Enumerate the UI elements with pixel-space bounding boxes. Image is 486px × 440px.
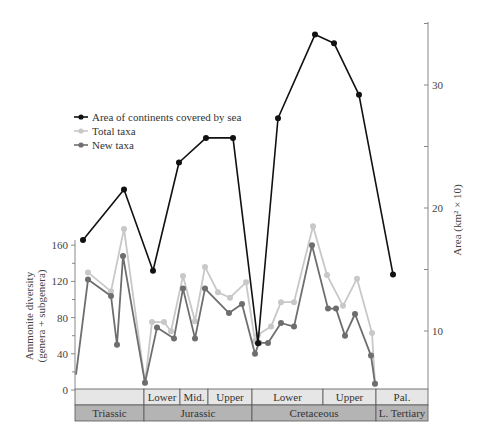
band-label: Triassic: [92, 407, 127, 419]
data-point: [372, 381, 378, 387]
band-lower-1: Jurassic: [144, 405, 252, 421]
chart-legend: Area of continents covered by seaTotal t…: [74, 111, 241, 151]
band-lower-3: L. Tertiary: [376, 405, 428, 421]
data-point: [265, 340, 271, 346]
band-lower-2: Cretaceous: [252, 405, 376, 421]
legend-marker-icon: [78, 142, 83, 147]
data-point: [180, 273, 186, 279]
data-point: [309, 242, 315, 248]
geologic-time-bands: LowerMid.UpperLowerUpperPal.TriassicJura…: [75, 389, 428, 421]
band-label: Jurassic: [181, 407, 216, 419]
data-point: [340, 303, 346, 309]
data-point: [154, 325, 160, 331]
legend-label: Total taxa: [92, 125, 136, 137]
data-point: [390, 271, 396, 277]
left-y-axis: 04080120160Ammonite diversity(genera + s…: [23, 239, 75, 396]
data-point: [252, 351, 258, 357]
band-upper-2: Mid.: [180, 389, 208, 405]
series-area-of-continents-covered-by-sea: [80, 32, 396, 347]
data-point: [291, 299, 297, 305]
data-point: [180, 286, 186, 292]
band-upper-0: [75, 389, 144, 405]
band-label: Mid.: [183, 391, 204, 403]
band-label: Upper: [216, 391, 244, 403]
band-upper-4: Lower: [252, 389, 323, 405]
series-total-taxa: [85, 223, 378, 387]
data-point: [291, 324, 297, 330]
band-label: Pal.: [394, 391, 411, 403]
data-point: [268, 324, 274, 330]
data-point: [278, 299, 284, 305]
data-point: [121, 226, 127, 232]
svg-text:80: 80: [57, 312, 69, 324]
legend-entry-2: New taxa: [74, 139, 134, 151]
data-point: [202, 286, 208, 292]
legend-label: Area of continents covered by sea: [92, 111, 241, 123]
band-upper-5: Upper: [323, 389, 376, 405]
data-point: [114, 342, 120, 348]
data-point: [310, 223, 316, 229]
data-point: [333, 306, 339, 312]
data-point: [85, 269, 91, 275]
svg-text:120: 120: [52, 275, 69, 287]
left-axis-title: Ammonite diversity(genera + subgenera): [23, 269, 48, 362]
band-label: Cretaceous: [290, 407, 339, 419]
band-label: Lower: [273, 391, 302, 403]
data-point: [226, 310, 232, 316]
ammonite-diversity-chart: LowerMid.UpperLowerUpperPal.TriassicJura…: [0, 0, 486, 440]
data-point: [278, 320, 284, 326]
data-point: [215, 289, 221, 295]
data-point: [80, 237, 86, 243]
band-label: Lower: [148, 391, 177, 403]
data-point: [108, 293, 114, 299]
data-point: [354, 276, 360, 282]
data-point: [255, 340, 261, 346]
data-point: [120, 253, 126, 259]
series-new-taxa: [76, 242, 378, 387]
legend-marker-icon: [78, 128, 83, 133]
data-point: [161, 319, 167, 325]
svg-text:30: 30: [432, 79, 444, 91]
data-point: [331, 40, 337, 46]
data-point: [171, 335, 177, 341]
data-point: [85, 277, 91, 283]
data-point: [203, 135, 209, 141]
svg-text:10: 10: [432, 325, 444, 337]
data-series: [76, 32, 396, 387]
band-lower-0: Triassic: [75, 405, 144, 421]
legend-marker-icon: [78, 114, 83, 119]
data-point: [121, 187, 127, 193]
svg-text:40: 40: [57, 348, 69, 360]
data-point: [368, 353, 374, 359]
data-point: [356, 92, 362, 98]
data-point: [275, 115, 281, 121]
data-point: [149, 319, 155, 325]
svg-text:0: 0: [63, 384, 69, 396]
data-point: [230, 135, 236, 141]
legend-entry-1: Total taxa: [74, 125, 136, 137]
band-upper-6: Pal.: [376, 389, 428, 405]
data-point: [243, 279, 249, 285]
data-point: [227, 295, 233, 301]
data-point: [369, 330, 375, 336]
svg-text:20: 20: [432, 202, 444, 214]
band-label: Upper: [336, 391, 364, 403]
right-y-axis: 102030Area (km² × 10): [424, 22, 464, 389]
data-point: [192, 335, 198, 341]
svg-text:160: 160: [52, 239, 69, 251]
band-upper-3: Upper: [208, 389, 252, 405]
band-upper-1: Lower: [144, 389, 180, 405]
data-point: [150, 268, 156, 274]
data-point: [352, 311, 358, 317]
data-point: [342, 333, 348, 339]
data-point: [202, 264, 208, 270]
data-point: [325, 306, 331, 312]
data-point: [176, 160, 182, 166]
legend-entry-0: Area of continents covered by sea: [74, 111, 241, 123]
legend-label: New taxa: [92, 139, 134, 151]
right-axis-title: Area (km² × 10): [451, 184, 464, 256]
data-point: [142, 380, 148, 386]
band-label: L. Tertiary: [379, 407, 426, 419]
data-point: [168, 328, 174, 334]
data-point: [324, 272, 330, 278]
